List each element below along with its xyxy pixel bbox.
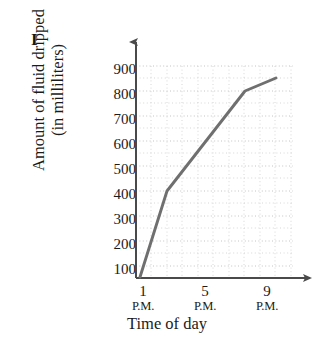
grid-lines-minor <box>136 66 293 278</box>
plot-area <box>0 0 334 344</box>
grid-lines-major <box>136 66 293 266</box>
data-series-line <box>140 78 276 277</box>
line-chart-figure: I Amount of fluid dripped (in milliliter… <box>0 0 334 344</box>
